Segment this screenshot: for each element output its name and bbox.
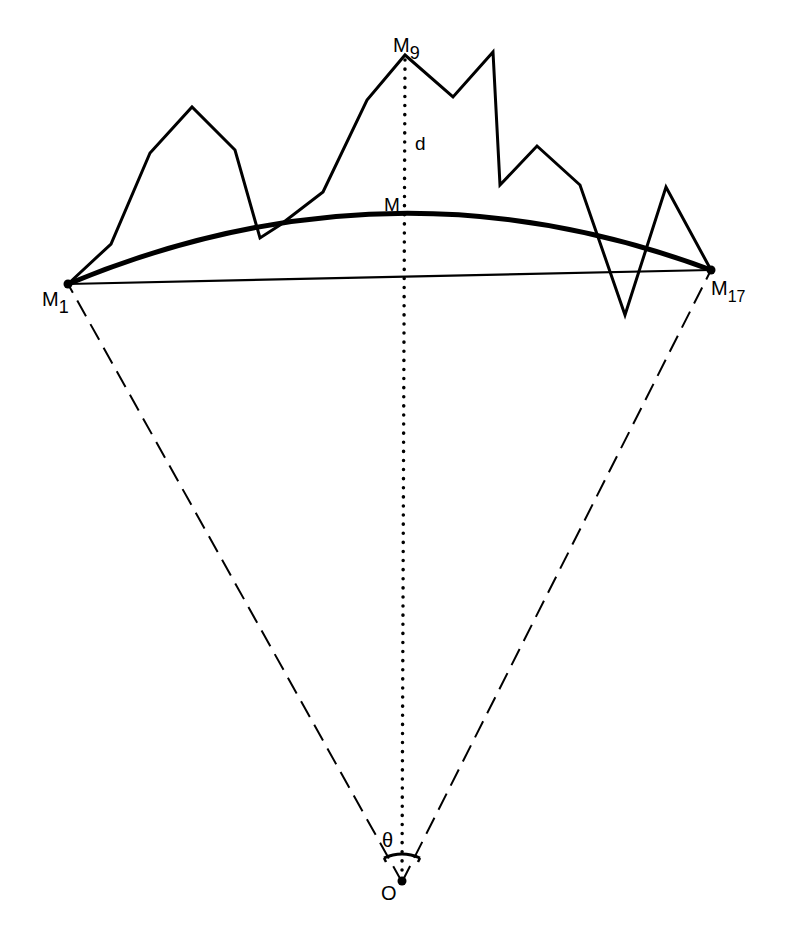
radius-o-m1 <box>68 284 402 882</box>
dotted-axis-m9-o <box>402 60 405 878</box>
point-m17-dot <box>707 266 716 275</box>
label-d: d <box>415 133 426 154</box>
arc-fitting-diagram: M1 M9 M17 M d θ O <box>0 0 792 945</box>
label-m: M <box>384 194 400 215</box>
label-o: O <box>381 882 397 904</box>
label-theta: θ <box>382 829 393 851</box>
point-o-dot <box>398 877 407 886</box>
label-m17: M17 <box>711 277 746 305</box>
point-m1-dot <box>64 280 73 289</box>
fitted-arc <box>68 213 711 284</box>
radius-o-m17 <box>402 270 711 882</box>
label-m9: M9 <box>393 34 420 63</box>
theta-angle-arc <box>384 854 420 858</box>
profile-polyline <box>68 52 711 315</box>
label-m1: M1 <box>42 288 69 317</box>
